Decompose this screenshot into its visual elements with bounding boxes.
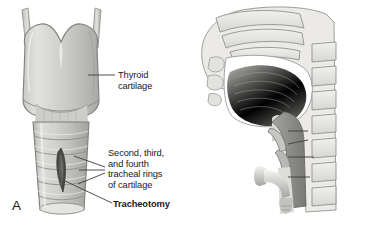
panel-b: Thyroid cartilage Larynx Esophagus Trach…: [186, 0, 372, 226]
label-tracheotomy-a: Tracheotomy: [113, 199, 170, 210]
nasal-turbinates: [207, 57, 224, 106]
panel-b-drawing: [186, 0, 372, 226]
label-tracheal-rings-a: Second, third, and fourth tracheal rings…: [108, 148, 164, 190]
panel-a: Thyroid cartilage Second, third, and fou…: [0, 0, 190, 226]
medical-illustration-figure: Thyroid cartilage Second, third, and fou…: [0, 0, 372, 226]
panel-letter-a: A: [12, 198, 21, 213]
panel-a-drawing: [0, 0, 190, 226]
label-thyroid-cartilage-a: Thyroid cartilage: [118, 70, 152, 91]
thyroid-cartilage-shape: [23, 24, 99, 117]
